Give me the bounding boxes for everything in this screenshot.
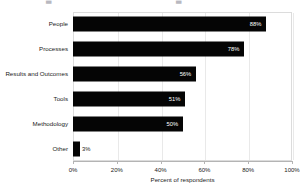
bar-row[interactable]: Methodology50% [0,111,308,136]
bar-row[interactable]: Processes78% [0,37,308,62]
category-label: Results and Outcomes [0,70,68,78]
x-tick-label: 0% [69,166,78,174]
bar-track: 56% [73,62,292,87]
bar-track: 3% [73,136,292,161]
bar-value-label: 88% [250,21,262,28]
bar[interactable] [73,141,80,156]
x-tick-mark [161,161,162,164]
x-tick-label: 80% [242,166,254,174]
bar-value-label: 50% [167,120,179,127]
bar[interactable] [73,17,266,32]
bar-track: 88% [73,12,292,37]
x-tick-mark [292,161,293,164]
x-tick-mark [73,161,74,164]
bar-row[interactable]: Results and Outcomes56% [0,62,308,87]
title-fragment-right: ▃ [176,0,181,3]
x-axis-title: Percent of respondents [73,176,292,184]
bar-track: 50% [73,111,292,136]
bar-value-label: 51% [169,95,181,102]
category-label: Processes [0,45,68,53]
clipped-title-remnant: ▃ ▃ [0,0,308,9]
bar[interactable] [73,42,244,57]
bar-row[interactable]: People88% [0,12,308,37]
x-tick-label: 40% [155,166,167,174]
bar-track: 51% [73,87,292,112]
bar-track: 78% [73,37,292,62]
bar[interactable] [73,67,196,82]
category-label: Methodology [0,120,68,128]
bar-row[interactable]: Other3% [0,136,308,161]
title-fragment-left: ▃ [46,0,51,3]
category-label: Other [0,145,68,153]
x-axis: 0%20%40%60%80%100% [73,161,292,162]
category-label: Tools [0,95,68,103]
x-tick-mark [248,161,249,164]
bar-rows: People88%Processes78%Results and Outcome… [0,12,308,161]
x-tick-label: 100% [284,166,299,174]
category-label: People [0,20,68,28]
bar-row[interactable]: Tools51% [0,87,308,112]
x-tick-label: 20% [111,166,123,174]
bar-value-label: 78% [228,46,240,53]
x-tick-mark [204,161,205,164]
x-tick-mark [117,161,118,164]
x-tick-label: 60% [198,166,210,174]
bar-chart-figure: ▃ ▃ People88%Processes78%Results and Out… [0,0,308,189]
bar-value-label: 3% [82,145,90,152]
bar-value-label: 56% [180,71,192,78]
